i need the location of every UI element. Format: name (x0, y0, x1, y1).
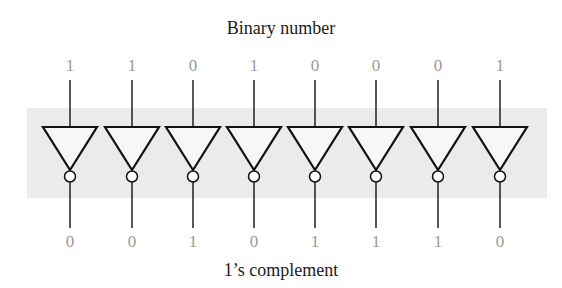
inversion-bubble-icon (310, 171, 321, 182)
ones-complement-diagram: Binary number 1’s complement 10100110010… (0, 0, 562, 288)
output-bit: 0 (250, 232, 259, 251)
output-bit: 1 (372, 232, 381, 251)
gray-band (27, 108, 547, 198)
diagram-svg: Binary number 1’s complement 10100110010… (0, 0, 562, 288)
input-bit: 0 (311, 56, 320, 75)
input-bit: 1 (128, 56, 137, 75)
output-bit: 0 (128, 232, 137, 251)
input-bit: 0 (189, 56, 198, 75)
inversion-bubble-icon (127, 171, 138, 182)
input-bit: 1 (250, 56, 259, 75)
output-bit: 0 (496, 232, 505, 251)
input-bit: 0 (372, 56, 381, 75)
output-bit: 0 (66, 232, 75, 251)
output-bit: 1 (311, 232, 320, 251)
inversion-bubble-icon (371, 171, 382, 182)
top-label: Binary number (227, 18, 335, 38)
inversion-bubble-icon (249, 171, 260, 182)
inversion-bubble-icon (433, 171, 444, 182)
input-bit: 1 (496, 56, 505, 75)
input-bit: 1 (66, 56, 75, 75)
bottom-label: 1’s complement (224, 260, 338, 280)
inversion-bubble-icon (65, 171, 76, 182)
inversion-bubble-icon (188, 171, 199, 182)
output-bit: 1 (434, 232, 443, 251)
inversion-bubble-icon (495, 171, 506, 182)
output-bit: 1 (189, 232, 198, 251)
input-bit: 0 (434, 56, 443, 75)
